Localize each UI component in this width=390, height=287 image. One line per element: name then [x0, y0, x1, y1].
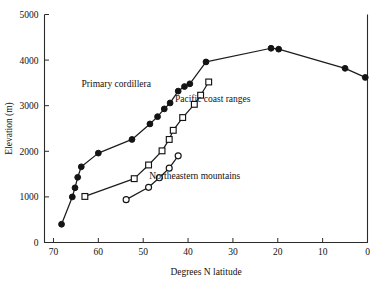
- elevation-latitude-line-chart: 706050403020100 010002000300040005000 Pr…: [0, 0, 390, 287]
- chart-container: 706050403020100 010002000300040005000 Pr…: [0, 0, 390, 287]
- y-axis-title: Elevation (m): [4, 102, 15, 155]
- y-tick-label: 5000: [20, 10, 39, 20]
- data-point-filled-circle: [75, 174, 81, 180]
- data-point-filled-circle: [69, 194, 75, 200]
- data-point-filled-circle: [342, 65, 348, 71]
- y-tick-label: 3000: [20, 101, 39, 111]
- data-point-open-square: [180, 115, 186, 121]
- series-label-3: Northeastern mountains: [149, 171, 240, 181]
- data-point-filled-circle: [129, 137, 135, 143]
- x-tick-label: 40: [183, 247, 193, 257]
- data-point-open-square: [159, 148, 165, 154]
- data-point-filled-circle: [182, 84, 188, 90]
- x-tick-label: 20: [273, 247, 283, 257]
- data-point-open-square: [166, 137, 172, 143]
- y-tick-label: 4000: [20, 56, 39, 66]
- data-point-filled-circle: [161, 106, 167, 112]
- y-tick-label: 2000: [20, 147, 39, 157]
- data-point-filled-circle: [167, 100, 173, 106]
- data-point-open-square: [146, 162, 152, 168]
- data-point-filled-circle: [276, 46, 282, 52]
- data-point-filled-circle: [203, 59, 209, 65]
- x-tick-label: 70: [49, 247, 59, 257]
- chart-background: [0, 0, 390, 287]
- y-tick-label: 0: [34, 238, 39, 248]
- data-point-open-square: [131, 176, 137, 182]
- data-point-open-circle: [146, 184, 152, 190]
- data-point-open-circle: [175, 153, 181, 159]
- data-point-filled-circle: [95, 150, 101, 156]
- y-tick-label: 1000: [20, 192, 39, 202]
- data-point-filled-circle: [72, 185, 78, 191]
- data-point-open-square: [170, 127, 176, 133]
- series-label-1: Primary cordillera: [82, 79, 152, 89]
- data-point-filled-circle: [78, 164, 84, 170]
- data-point-open-square: [206, 79, 212, 85]
- x-axis-title: Degrees N latitude: [170, 267, 241, 277]
- data-point-open-circle: [123, 197, 129, 203]
- x-tick-label: 30: [228, 247, 238, 257]
- data-point-filled-circle: [155, 114, 161, 120]
- data-point-filled-circle: [147, 121, 153, 127]
- data-point-filled-circle: [362, 75, 368, 81]
- data-point-filled-circle: [59, 221, 65, 227]
- x-tick-label: 10: [318, 247, 328, 257]
- x-tick-label: 50: [138, 247, 148, 257]
- series-label-2: Pacific coast ranges: [175, 94, 251, 104]
- x-tick-label: 0: [365, 247, 370, 257]
- data-point-filled-circle: [268, 45, 274, 51]
- x-tick-label: 60: [94, 247, 104, 257]
- data-point-open-square: [82, 194, 88, 200]
- data-point-filled-circle: [187, 81, 193, 87]
